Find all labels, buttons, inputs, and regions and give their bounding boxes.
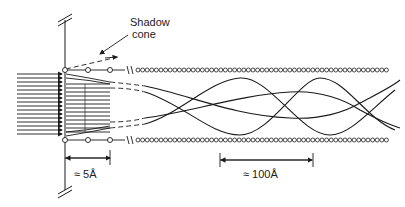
bottom-dense-atoms bbox=[136, 138, 388, 142]
short-distance-label: ≈ 5Å bbox=[74, 168, 97, 180]
top-dense-atoms bbox=[136, 68, 388, 72]
channeled-trajectories bbox=[145, 78, 400, 135]
dashed-transitions bbox=[110, 82, 145, 128]
shadow-cone-label-line1: Shadow bbox=[130, 16, 170, 28]
scale-bar-5A bbox=[65, 150, 110, 165]
shadow-cone-line bbox=[66, 35, 128, 69]
bottom-atom-row bbox=[63, 136, 134, 144]
shadow-cone-label: Shadow cone bbox=[130, 16, 170, 40]
long-distance-label: ≈ 100Å bbox=[243, 168, 278, 180]
scale-bar-100A bbox=[220, 153, 313, 167]
channeling-diagram bbox=[0, 0, 405, 207]
top-atom-row bbox=[63, 66, 134, 74]
shadow-cone-label-line2: cone bbox=[130, 28, 170, 40]
incident-beam-arrows bbox=[17, 74, 62, 134]
transmitted-beam bbox=[66, 84, 110, 132]
deflected-trajectories bbox=[66, 74, 110, 136]
